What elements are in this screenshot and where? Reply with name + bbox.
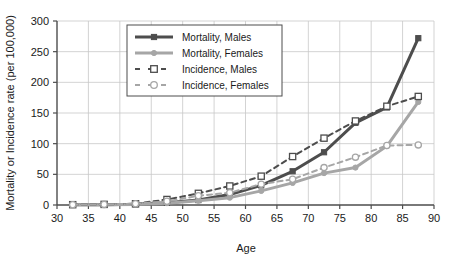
data-point-marker	[227, 183, 233, 189]
data-point-marker	[164, 198, 170, 204]
data-point-marker	[352, 154, 358, 160]
x-tick-label: 60	[239, 212, 251, 224]
x-tick-label: 70	[302, 212, 314, 224]
data-point-marker	[132, 201, 138, 207]
y-tick-label: 50	[37, 168, 49, 180]
data-point-marker	[290, 176, 296, 182]
x-tick-label: 30	[51, 212, 63, 224]
data-point-marker	[151, 82, 158, 89]
x-tick-label: 45	[145, 212, 157, 224]
data-point-marker	[352, 118, 358, 124]
data-point-marker	[258, 181, 264, 187]
data-point-marker	[384, 103, 390, 109]
data-point-marker	[258, 173, 264, 179]
y-tick-label: 250	[31, 46, 49, 58]
x-tick-label: 75	[334, 212, 346, 224]
legend-label: Incidence, Females	[182, 80, 269, 91]
chart-canvas: 30354045505560657075808590 0501001502002…	[0, 0, 449, 262]
x-tick-label: 40	[114, 212, 126, 224]
legend-label: Mortality, Males	[182, 32, 251, 43]
data-point-marker	[151, 50, 156, 55]
legend-label: Mortality, Females	[182, 48, 263, 59]
x-axis-title: Age	[236, 242, 256, 254]
data-point-marker	[101, 201, 107, 207]
legend-label: Incidence, Males	[182, 64, 257, 75]
chart-legend: Mortality, MalesMortality, FemalesIncide…	[127, 25, 282, 96]
data-point-marker	[70, 202, 76, 208]
x-tick-label: 65	[271, 212, 283, 224]
legend-item-2[interactable]: Incidence, Males	[135, 64, 257, 75]
data-point-marker	[259, 188, 264, 193]
data-point-marker	[290, 153, 296, 159]
y-tick-label: 0	[43, 199, 49, 211]
data-point-marker	[321, 150, 326, 155]
y-tick-label: 300	[31, 15, 49, 27]
data-point-marker	[151, 66, 158, 73]
y-tick-label: 200	[31, 76, 49, 88]
data-point-marker	[321, 164, 327, 170]
y-tick-label: 150	[31, 107, 49, 119]
data-point-marker	[195, 193, 201, 199]
y-axis-title: Mortality or Incidence rate (per 100,000…	[4, 15, 16, 211]
data-point-marker	[384, 142, 390, 148]
x-tick-label: 35	[82, 212, 94, 224]
data-point-marker	[151, 34, 156, 39]
data-point-marker	[321, 135, 327, 141]
x-tick-label: 80	[365, 212, 377, 224]
data-point-marker	[415, 93, 421, 99]
data-point-marker	[353, 165, 358, 170]
chart-figure: 30354045505560657075808590 0501001502002…	[0, 0, 449, 262]
x-tick-label: 55	[208, 212, 220, 224]
x-tick-label: 85	[396, 212, 408, 224]
data-point-marker	[227, 190, 233, 196]
x-tick-label: 50	[177, 212, 189, 224]
x-tick-label: 90	[428, 212, 440, 224]
data-point-marker	[416, 36, 421, 41]
data-point-marker	[290, 169, 295, 174]
y-tick-label: 100	[31, 138, 49, 150]
data-point-marker	[415, 142, 421, 148]
